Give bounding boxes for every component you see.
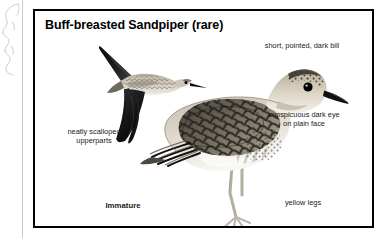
label-upperparts: neatly scalloped upperparts	[42, 127, 146, 146]
label-legs: yellow legs	[260, 198, 346, 207]
page-title: Buff-breasted Sandpiper (rare)	[45, 18, 223, 32]
plate-frame: Buff-breasted Sandpiper (rare)	[33, 9, 374, 228]
label-bill: short, pointed, dark bill	[242, 41, 362, 50]
label-age: Immature	[80, 201, 166, 210]
margin-sketch-illustration	[0, 2, 22, 76]
page-canvas: Buff-breasted Sandpiper (rare)	[0, 0, 386, 238]
margin-rule	[22, 0, 23, 238]
label-eye: conspicuous dark eye on plain face	[248, 110, 360, 129]
plate-content: Buff-breasted Sandpiper (rare)	[35, 11, 372, 226]
